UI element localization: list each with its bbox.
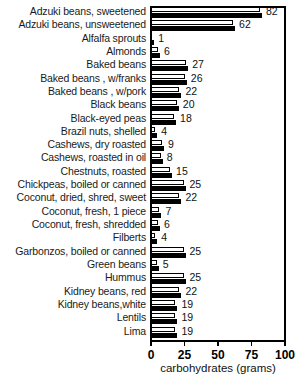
bar-shadow xyxy=(152,293,181,298)
bar-value-label: 22 xyxy=(185,285,197,297)
bar xyxy=(150,207,161,219)
category-label: Chestnuts, roasted xyxy=(0,165,146,177)
bar-shadow xyxy=(152,266,159,271)
chart-row: Black beans20 xyxy=(0,99,296,112)
bar xyxy=(150,74,187,86)
x-axis-tick-label: 0 xyxy=(148,348,155,362)
bar-shadow xyxy=(152,253,186,258)
bar-face xyxy=(150,273,184,278)
chart-row: Baked beans , w/franks26 xyxy=(0,73,296,86)
bar-face xyxy=(150,74,185,79)
bar-face xyxy=(150,7,260,12)
bar-face xyxy=(150,167,170,172)
chart-row: Adzuki beans, unsweetened62 xyxy=(0,19,296,32)
bar xyxy=(150,100,179,112)
category-label: Adzuki beans, unsweetened xyxy=(0,18,146,30)
category-label: Almonds xyxy=(0,45,146,57)
bar xyxy=(150,300,177,312)
chart-row: Cashews, roasted in oil8 xyxy=(0,152,296,165)
category-label: Kidney beans,white xyxy=(0,298,146,310)
bar-value-label: 26 xyxy=(191,72,203,84)
chart-rows: Adzuki beans, sweetened82Adzuki beans, u… xyxy=(0,6,296,339)
bar-value-label: 22 xyxy=(185,191,197,203)
bar-face xyxy=(150,313,175,318)
bar-shadow xyxy=(152,13,262,18)
bar-value-label: 1 xyxy=(158,32,164,44)
bar-shadow xyxy=(152,319,177,324)
chart-row: Baked beans27 xyxy=(0,59,296,72)
bar-value-label: 8 xyxy=(167,151,173,163)
bar xyxy=(150,114,176,126)
bar-shadow xyxy=(152,226,160,231)
chart-row: Baked beans , w/pork22 xyxy=(0,86,296,99)
category-label: Kidney beans, red xyxy=(0,285,146,297)
x-axis-tick-label: 25 xyxy=(178,348,191,362)
bar-shadow xyxy=(152,26,235,31)
x-axis-tick-label: 50 xyxy=(211,348,224,362)
chart-row: Chickpeas, boiled or canned25 xyxy=(0,179,296,192)
bar-shadow xyxy=(152,106,179,111)
bar-shadow xyxy=(152,159,163,164)
bar-face xyxy=(150,287,179,292)
y-axis-line xyxy=(150,6,152,341)
bar xyxy=(150,153,163,165)
bar xyxy=(150,180,186,192)
x-axis-tick-label: 100 xyxy=(275,348,295,362)
bar-value-label: 7 xyxy=(165,205,171,217)
chart-row: Cashews, dry roasted9 xyxy=(0,139,296,152)
bar-face xyxy=(150,327,175,332)
bar-face xyxy=(150,300,175,305)
bar-value-label: 15 xyxy=(176,165,188,177)
bar-shadow xyxy=(152,120,176,125)
bar-value-label: 5 xyxy=(163,258,169,270)
chart-row: Kidney beans,white19 xyxy=(0,299,296,312)
bar-value-label: 25 xyxy=(190,245,202,257)
bar xyxy=(150,287,181,299)
bar xyxy=(150,273,186,285)
category-label: Cashews, roasted in oil xyxy=(0,151,146,163)
category-label: Baked beans xyxy=(0,58,146,70)
bar-face xyxy=(150,114,174,119)
bar-value-label: 6 xyxy=(164,45,170,57)
bar xyxy=(150,20,235,32)
category-label: Black beans xyxy=(0,98,146,110)
category-label: Chickpeas, boiled or canned xyxy=(0,178,146,190)
bar-shadow xyxy=(152,66,188,71)
carbohydrates-bar-chart: Adzuki beans, sweetened82Adzuki beans, u… xyxy=(0,0,296,378)
category-label: Baked beans , w/pork xyxy=(0,85,146,97)
chart-row: Coconut, fresh, 1 piece7 xyxy=(0,206,296,219)
chart-row: Almonds6 xyxy=(0,46,296,59)
bar-value-label: 22 xyxy=(185,85,197,97)
chart-row: Black-eyed peas18 xyxy=(0,113,296,126)
bar-shadow xyxy=(152,333,177,338)
bar xyxy=(150,7,262,19)
bar-value-label: 27 xyxy=(192,58,204,70)
bar-face xyxy=(150,180,184,185)
category-label: Garbonzos, boiled or canned xyxy=(0,245,146,257)
bar-shadow xyxy=(152,213,161,218)
chart-row: Hummus25 xyxy=(0,272,296,285)
chart-row: Coconut, fresh, shredded6 xyxy=(0,219,296,232)
chart-row: Kidney beans, red22 xyxy=(0,286,296,299)
bar-face xyxy=(150,100,177,105)
chart-row: Filberts4 xyxy=(0,232,296,245)
category-label: Filberts xyxy=(0,231,146,243)
bar-value-label: 4 xyxy=(161,231,167,243)
bar-face xyxy=(150,153,161,158)
chart-row: Coconut, dried, shred, sweet22 xyxy=(0,192,296,205)
chart-row: Green beans5 xyxy=(0,259,296,272)
x-axis-tick xyxy=(251,341,253,346)
bar-shadow xyxy=(152,239,157,244)
bar-value-label: 25 xyxy=(190,178,202,190)
x-axis-tick xyxy=(150,341,152,346)
category-label: Brazil nuts, shelled xyxy=(0,125,146,137)
bar xyxy=(150,140,164,152)
bar-face xyxy=(150,87,179,92)
chart-row: Lima19 xyxy=(0,326,296,339)
bar xyxy=(150,247,186,259)
category-label: Green beans xyxy=(0,258,146,270)
category-label: Baked beans , w/franks xyxy=(0,72,146,84)
category-label: Lentils xyxy=(0,311,146,323)
bar-shadow xyxy=(152,306,177,311)
bar-value-label: 6 xyxy=(164,218,170,230)
